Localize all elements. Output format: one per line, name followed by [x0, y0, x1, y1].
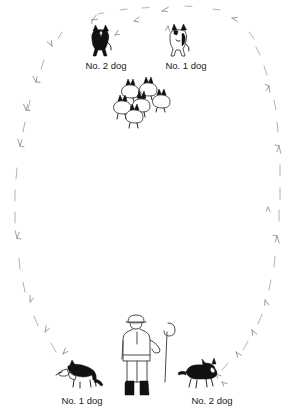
sheep-flock — [114, 77, 171, 128]
field-boundary — [15, 6, 281, 379]
bottom-left-dog-label: No. 1 dog — [61, 395, 102, 406]
bottom-left-dog — [56, 360, 103, 388]
top-right-dog — [170, 24, 189, 56]
bottom-right-dog-label: No. 2 dog — [191, 395, 232, 406]
shepherd — [122, 315, 160, 395]
top-left-dog — [92, 25, 111, 56]
boundary-tufts — [15, 7, 281, 379]
bottom-right-dog — [178, 358, 227, 388]
top-right-dog-label: No. 1 dog — [165, 60, 206, 71]
sheepdog-trial-diagram: No. 2 dog No. 1 dog — [0, 0, 293, 414]
shepherd-crook — [164, 323, 175, 382]
boundary-top-arc — [98, 6, 220, 14]
top-left-dog-label: No. 2 dog — [85, 60, 126, 71]
